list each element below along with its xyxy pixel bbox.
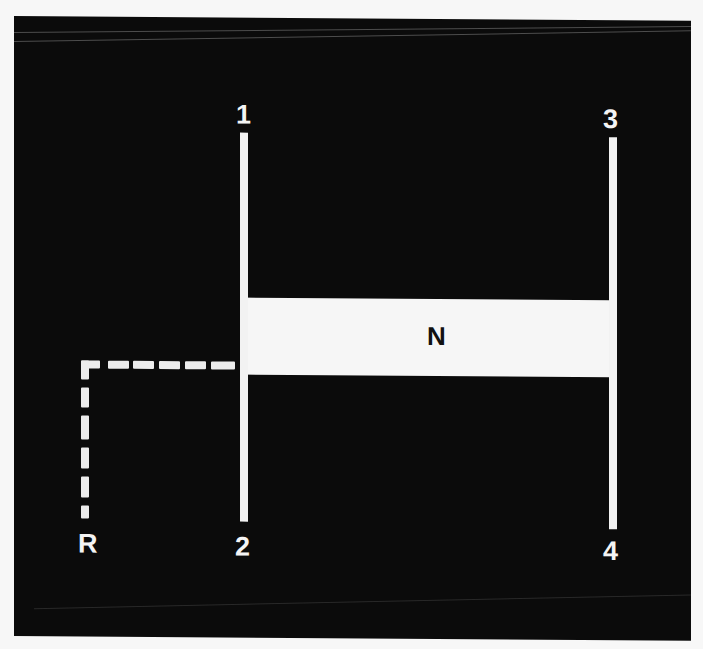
gear-label-3: 3: [603, 106, 618, 133]
reverse-path-dash: [211, 361, 235, 369]
neutral-band: [240, 298, 610, 378]
scan-scratch: [34, 594, 691, 609]
reverse-path-dash: [185, 361, 206, 369]
reverse-path-dash: [159, 361, 180, 369]
reverse-label: R: [78, 530, 98, 557]
diagram-panel: 1 3 2 4 R N: [14, 16, 691, 641]
reverse-path-dash: [81, 505, 89, 518]
reverse-path-dash: [81, 387, 89, 407]
reverse-path-dash: [81, 447, 89, 468]
reverse-path-dash: [133, 361, 154, 369]
gate-line-3-4: [609, 137, 617, 529]
gate-line-1-2: [240, 133, 248, 522]
neutral-label: N: [427, 323, 446, 349]
reverse-path-dash: [108, 361, 129, 369]
gear-label-4: 4: [603, 538, 618, 565]
gear-label-1: 1: [236, 102, 251, 129]
reverse-path-corner: [81, 360, 89, 379]
reverse-path-dash: [81, 415, 89, 439]
gear-label-2: 2: [235, 534, 250, 561]
reverse-path-dash: [81, 476, 89, 497]
